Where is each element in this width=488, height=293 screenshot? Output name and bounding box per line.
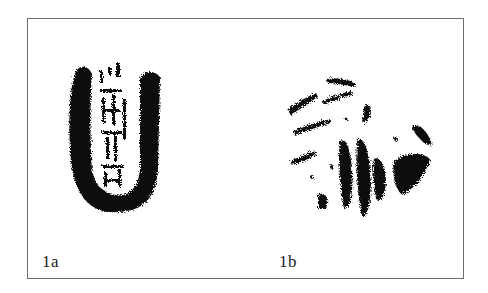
- seal-rubbing-1a-image: [28, 19, 246, 280]
- rubbing-1b-image: [246, 19, 465, 280]
- figure-frame: 1a: [27, 18, 464, 279]
- panel-1b: 1b: [246, 19, 465, 278]
- panel-label-1a: 1a: [42, 252, 59, 272]
- panel-1a: 1a: [28, 19, 246, 278]
- panel-label-1b: 1b: [279, 252, 297, 272]
